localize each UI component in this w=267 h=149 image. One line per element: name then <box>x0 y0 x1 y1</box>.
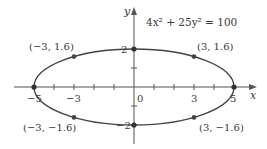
x-tick-label: 0 <box>137 93 143 104</box>
y-axis-arrow-icon <box>131 7 137 15</box>
point-3-1.6 <box>192 54 197 59</box>
point-neg3-neg1.6 <box>72 115 77 120</box>
point-3-neg1.6 <box>192 115 197 120</box>
point-label: (3, 1.6) <box>197 41 234 52</box>
x-axis-label: x <box>250 89 257 102</box>
y-tick-label: 2 <box>121 44 127 55</box>
x-tick-label: −5 <box>27 93 42 104</box>
x-tick-label: 5 <box>230 93 236 104</box>
equation-label: 4x² + 25y² = 100 <box>146 16 237 28</box>
point-label: (3, −1.6) <box>199 122 244 133</box>
y-tick-label: −2 <box>116 120 131 131</box>
point-neg3-1.6 <box>72 54 77 59</box>
x-tick-label: −3 <box>66 93 81 104</box>
y-axis-label: y <box>123 5 131 18</box>
point-label: (−3, 1.6) <box>29 41 74 52</box>
x-tick-label: 3 <box>191 93 197 104</box>
point-label: (−3, −1.6) <box>23 122 76 133</box>
ellipse-diagram: 4x² + 25y² = 100 y x −5 −3 0 3 5 2 −2 (−… <box>0 0 267 149</box>
